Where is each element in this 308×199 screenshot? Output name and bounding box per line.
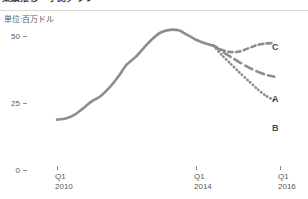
series-line-a — [213, 46, 274, 77]
y-tick-label-25: 25 — [4, 99, 20, 108]
x-tick-mark-2014 — [196, 166, 197, 170]
chart-page: 業績推移・予測グラフ 単位:百万ドル 50 25 0 Q1 2010 Q1 20… — [0, 0, 308, 199]
series-line-b — [213, 46, 274, 101]
series-label-c: C — [272, 42, 279, 52]
x-tick-label-2010-quarter: Q1 — [55, 172, 66, 182]
x-tick-label-2016-quarter: Q1 — [278, 172, 289, 182]
plot-area: 50 25 0 Q1 2010 Q1 2014 Q1 2016 C A B — [0, 0, 308, 199]
y-tick-mark-25 — [23, 103, 27, 104]
y-tick-label-50: 50 — [4, 32, 20, 41]
y-tick-mark-0 — [23, 170, 27, 171]
x-tick-mark-2010 — [57, 166, 58, 170]
y-tick-mark-50 — [23, 36, 27, 37]
series-plot — [0, 0, 308, 199]
x-tick-label-2010-year: 2010 — [55, 182, 73, 192]
series-line-actual — [57, 30, 213, 120]
series-label-b: B — [272, 123, 279, 133]
x-tick-label-2016-year: 2016 — [278, 182, 296, 192]
series-label-a: A — [272, 94, 279, 104]
x-tick-label-2014-year: 2014 — [194, 182, 212, 192]
x-tick-mark-2016 — [280, 166, 281, 170]
y-tick-label-0: 0 — [4, 166, 20, 175]
x-tick-label-2014-quarter: Q1 — [194, 172, 205, 182]
series-line-c — [213, 43, 274, 52]
